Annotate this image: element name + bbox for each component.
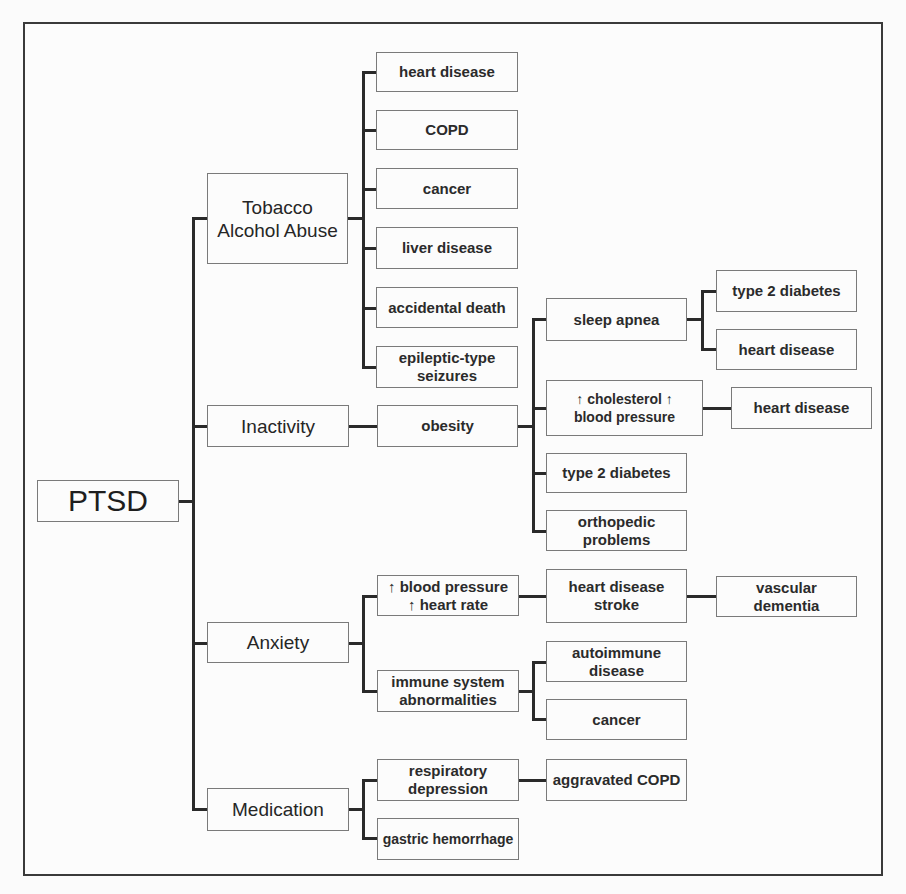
node-autoimmune-disease: autoimmune disease (546, 641, 687, 682)
connector (349, 425, 377, 428)
node-anxiety: Anxiety (207, 622, 349, 663)
node-cancer: cancer (376, 168, 518, 209)
node-blood-pressure-heart-rate: ↑ blood pressure ↑ heart rate (377, 575, 519, 616)
connector (362, 247, 376, 250)
connector-spine (362, 595, 365, 692)
node-sleep-apnea-type-2-diabetes: type 2 diabetes (716, 270, 857, 312)
connector (362, 366, 376, 369)
connector (362, 307, 376, 310)
connector (532, 472, 546, 475)
node-orthopedic-problems: orthopedic problems (546, 510, 687, 551)
connector (519, 595, 546, 598)
node-aggravated-copd: aggravated COPD (546, 759, 687, 801)
node-respiratory-depression: respiratory depression (377, 759, 519, 801)
node-vascular-dementia: vascular dementia (716, 576, 857, 617)
connector (362, 71, 376, 74)
connector-spine (192, 217, 195, 811)
connector-spine (532, 661, 535, 720)
connector (532, 318, 546, 321)
connector (362, 690, 377, 693)
connector (362, 779, 377, 782)
connector (192, 217, 207, 220)
connector (192, 642, 207, 645)
node-cholesterol-blood-pressure: ↑ cholesterol ↑ blood pressure (546, 380, 703, 436)
node-gastric-hemorrhage: gastric hemorrhage (377, 818, 519, 860)
node-type-2-diabetes: type 2 diabetes (546, 453, 687, 493)
connector (532, 661, 546, 664)
node-accidental-death: accidental death (376, 287, 518, 328)
node-tobacco-alcohol-abuse: Tobacco Alcohol Abuse (207, 173, 348, 264)
connector (532, 718, 546, 721)
connector (703, 407, 731, 410)
connector (532, 407, 546, 410)
node-ptsd: PTSD (37, 480, 179, 522)
connector (519, 779, 546, 782)
connector-spine (701, 290, 704, 350)
diagram-frame (23, 22, 883, 876)
node-copd: COPD (376, 110, 518, 150)
connector (687, 595, 716, 598)
node-inactivity: Inactivity (207, 405, 349, 447)
connector (362, 837, 377, 840)
connector (701, 348, 716, 351)
node-obesity: obesity (377, 405, 518, 447)
node-sleep-apnea: sleep apnea (546, 298, 687, 341)
connector (532, 530, 546, 533)
node-immune-cancer: cancer (546, 699, 687, 740)
node-immune-system-abnormalities: immune system abnormalities (377, 670, 519, 712)
connector (362, 188, 376, 191)
node-cholesterol-heart-disease: heart disease (731, 387, 872, 429)
connector-spine (532, 318, 535, 531)
node-medication: Medication (207, 788, 349, 831)
connector (362, 595, 377, 598)
node-sleep-apnea-heart-disease: heart disease (716, 329, 857, 370)
node-epileptic-type-seizures: epileptic-type seizures (376, 346, 518, 388)
node-liver-disease: liver disease (376, 227, 518, 269)
connector (362, 129, 376, 132)
node-heart-disease-stroke: heart disease stroke (546, 569, 687, 623)
connector-spine (362, 779, 365, 839)
connector (192, 808, 207, 811)
connector (192, 425, 207, 428)
node-heart-disease: heart disease (376, 52, 518, 92)
connector-spine (362, 71, 365, 368)
connector (701, 290, 716, 293)
